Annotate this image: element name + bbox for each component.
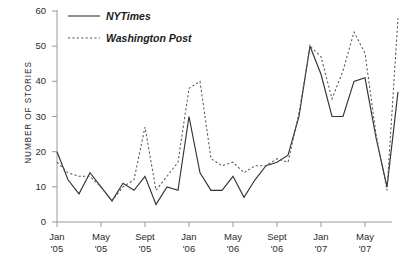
series-line-washington-post: [57, 18, 398, 201]
legend-label-washington-post: Washington Post: [106, 32, 192, 44]
x-tick-month: May: [343, 231, 387, 243]
x-axis-ticks: [57, 222, 365, 227]
x-tick-year: '06: [167, 243, 211, 255]
x-tick-label: Jan'06: [167, 231, 211, 254]
x-tick-month: Sept: [123, 231, 167, 243]
x-tick-year: '05: [35, 243, 79, 255]
x-tick-label: Jan'07: [299, 231, 343, 254]
x-tick-label: Sept'05: [123, 231, 167, 254]
series-line-nytimes: [57, 46, 398, 204]
x-tick-year: '06: [211, 243, 255, 255]
x-tick-label: Jan'05: [35, 231, 79, 254]
x-tick-month: Jan: [299, 231, 343, 243]
x-tick-label: May'07: [343, 231, 387, 254]
y-tick-label: 20: [24, 146, 46, 157]
x-tick-label: Sept'06: [255, 231, 299, 254]
y-tick-label: 10: [24, 181, 46, 192]
y-tick-label: 50: [24, 40, 46, 51]
x-tick-year: '05: [79, 243, 123, 255]
x-tick-month: Jan: [35, 231, 79, 243]
legend-label-nytimes: NYTimes: [106, 10, 151, 22]
x-tick-month: May: [211, 231, 255, 243]
y-tick-label: 0: [24, 216, 46, 227]
line-chart-plot: [0, 0, 401, 261]
x-tick-year: '07: [343, 243, 387, 255]
x-tick-label: May'05: [79, 231, 123, 254]
y-tick-label: 40: [24, 75, 46, 86]
chart-container: NUMBER OF STORIES 0102030405060 Jan'05Ma…: [0, 0, 401, 261]
y-tick-label: 30: [24, 111, 46, 122]
x-tick-year: '07: [299, 243, 343, 255]
y-axis-ticks: [52, 11, 57, 222]
data-series-layer: [57, 18, 398, 204]
x-tick-month: May: [79, 231, 123, 243]
x-tick-year: '05: [123, 243, 167, 255]
x-tick-month: Sept: [255, 231, 299, 243]
x-tick-year: '06: [255, 243, 299, 255]
x-tick-month: Jan: [167, 231, 211, 243]
y-tick-label: 60: [24, 5, 46, 16]
x-tick-label: May'06: [211, 231, 255, 254]
